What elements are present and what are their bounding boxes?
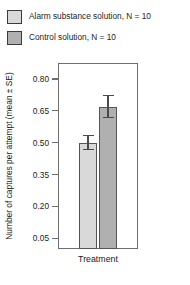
error-bar-cap-lower [103,117,114,118]
y-axis-tick-label: 0.80 [0,73,49,85]
x-axis-label: Treatment [58,253,138,265]
error-bar-line [107,95,108,118]
chart-legend: Alarm substance solution, N = 10 Control… [7,6,187,48]
legend-label-alarm-substance: Alarm substance solution, N = 10 [29,12,151,21]
error-bar-control [99,95,117,118]
y-axis-tick-label: 0.50 [0,137,49,149]
legend-swatch-control [7,31,22,45]
error-bar-line [87,135,88,150]
y-axis-title: Number of captures per attempt (mean ± S… [2,63,16,249]
y-axis-tick-label: 0.05 [0,232,49,244]
legend-swatch-alarm-substance [7,10,22,24]
plot-bars [58,63,138,249]
bar-control [99,107,117,249]
legend-label-control: Control solution, N = 10 [29,33,116,42]
legend-item-control: Control solution, N = 10 [7,27,187,48]
bar-alarm-substance [79,143,97,249]
error-bar-alarm-substance [79,135,97,150]
y-axis-tick-label: 0.35 [0,169,49,181]
y-axis-tick-label: 0.20 [0,200,49,212]
error-bar-cap-lower [83,149,94,150]
bar-chart-figure: Alarm substance solution, N = 10 Control… [0,0,190,285]
y-axis-tick-label: 0.65 [0,105,49,117]
legend-item-alarm-substance: Alarm substance solution, N = 10 [7,6,187,27]
error-bar-cap-upper [103,95,114,96]
error-bar-cap-upper [83,135,94,136]
